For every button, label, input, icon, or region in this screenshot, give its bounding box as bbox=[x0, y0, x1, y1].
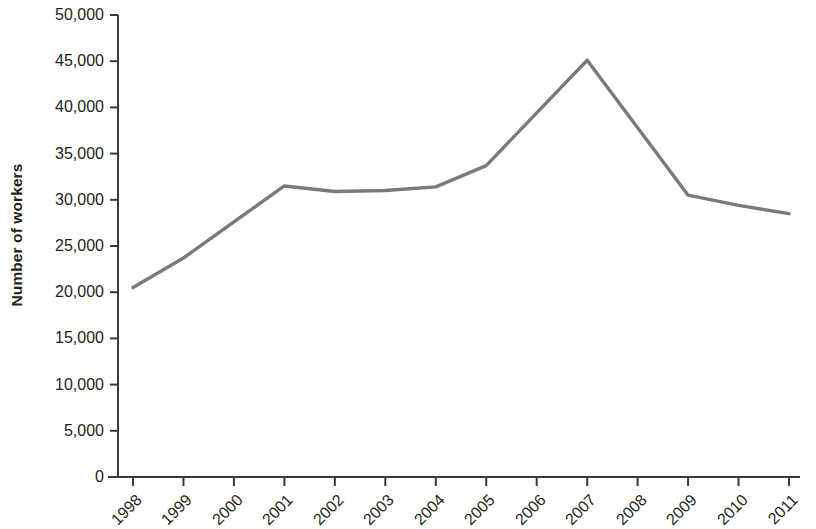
x-axis-tick-label: 2001 bbox=[252, 491, 297, 529]
x-axis-tick-labels: 1998199920002001200220032004200520062007… bbox=[0, 0, 816, 529]
x-axis-tick-label: 2009 bbox=[656, 491, 701, 529]
x-axis-tick-label: 2008 bbox=[605, 491, 650, 529]
x-axis-tick-label: 1998 bbox=[100, 491, 145, 529]
x-axis-tick-label: 2010 bbox=[706, 491, 751, 529]
x-axis-tick-label: 2004 bbox=[403, 491, 448, 529]
x-axis-tick-label: 2006 bbox=[504, 491, 549, 529]
x-axis-tick-label: 2000 bbox=[201, 491, 246, 529]
x-axis-tick-label: 2003 bbox=[353, 491, 398, 529]
line-chart: Number of workers 05,00010,00015,00020,0… bbox=[0, 0, 816, 529]
x-axis-tick-label: 2007 bbox=[555, 491, 600, 529]
x-axis-tick-label: 2005 bbox=[454, 491, 499, 529]
x-axis-tick-label: 2011 bbox=[756, 491, 801, 529]
x-axis-tick-label: 2002 bbox=[302, 491, 347, 529]
x-axis-tick-label: 1999 bbox=[151, 491, 196, 529]
